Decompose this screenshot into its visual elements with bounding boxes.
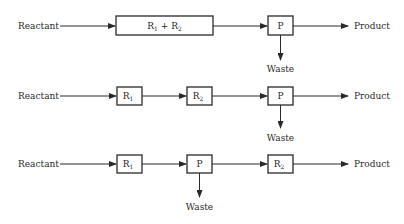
row-1-box-p: P (268, 16, 293, 35)
row-3-reactant-label: Reactant (18, 159, 59, 169)
row-2-box-r2: R2 (187, 87, 212, 105)
row-2-product-label: Product (354, 91, 390, 101)
row-3-flow: Reactant R1 P R2 Product Waste (18, 155, 390, 212)
row-3-box-r2: R2 (268, 155, 293, 173)
row-1-reactant-label: Reactant (18, 21, 59, 31)
row-3-box-p-label: P (196, 159, 202, 169)
process-flow-diagram: Reactant R1 + R2 P Product Waste Reactan… (0, 0, 404, 224)
row-2-box-p: P (268, 87, 293, 105)
row-2-box-p-label: P (277, 91, 283, 101)
row-1-box-r1-plus-r2-label: R1 + R2 (147, 21, 182, 32)
row-3-box-r1: R1 (117, 155, 142, 173)
row-1-flow: Reactant R1 + R2 P Product Waste (18, 16, 390, 74)
row-2-reactant-label: Reactant (18, 91, 59, 101)
row-1-box-p-label: P (277, 21, 283, 31)
row-3-product-label: Product (354, 159, 390, 169)
row-1-waste-label: Waste (267, 64, 294, 74)
row-1-box-r1-plus-r2: R1 + R2 (116, 16, 213, 35)
row-3-waste-label: Waste (186, 202, 213, 212)
row-1-product-label: Product (354, 21, 390, 31)
row-2-box-r1: R1 (117, 87, 142, 105)
row-3-box-p: P (187, 155, 212, 173)
row-2-flow: Reactant R1 R2 P Product Waste (18, 87, 390, 143)
row-2-waste-label: Waste (267, 133, 294, 143)
